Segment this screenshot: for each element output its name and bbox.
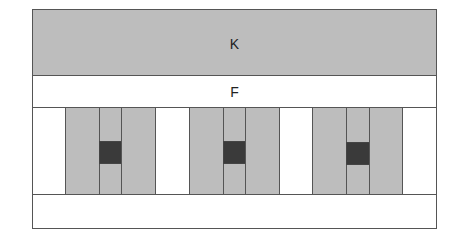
column-gray-2a [189, 107, 224, 195]
column-white-3 [279, 107, 313, 195]
dark-square-1 [99, 141, 122, 164]
column-white-1 [32, 107, 66, 195]
column-gray-1a [65, 107, 100, 195]
column-gray-3b [369, 107, 403, 195]
bottom-strip [32, 194, 437, 229]
column-gray-3a [312, 107, 347, 195]
column-gray-2b [245, 107, 280, 195]
block-k-label: K [32, 36, 437, 52]
column-white-2 [155, 107, 190, 195]
dark-square-2 [223, 141, 246, 164]
column-gray-1b [121, 107, 156, 195]
column-white-4 [402, 107, 437, 195]
dark-square-3 [346, 142, 370, 165]
strip-f-label: F [32, 84, 437, 100]
